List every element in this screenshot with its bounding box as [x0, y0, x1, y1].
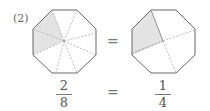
right-numerator: 1	[153, 79, 173, 93]
right-fraction: 1 4	[153, 79, 173, 110]
left-fraction: 2 8	[54, 79, 74, 110]
octagon-diagrams	[0, 0, 210, 111]
right-octagon	[132, 10, 195, 73]
right-denominator: 4	[153, 96, 173, 110]
left-octagon	[33, 10, 96, 73]
equals-sign-bottom: =	[107, 84, 119, 100]
left-numerator: 2	[54, 79, 74, 93]
left-denominator: 8	[54, 96, 74, 110]
equals-sign-top: =	[107, 33, 119, 49]
